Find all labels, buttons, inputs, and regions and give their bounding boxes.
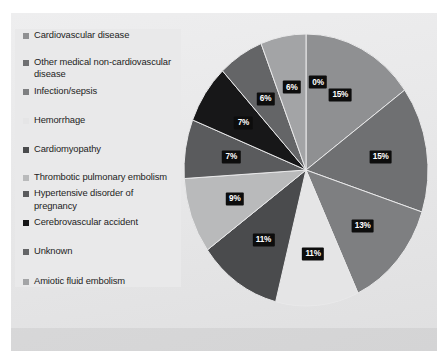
legend-swatch-icon bbox=[23, 279, 29, 285]
legend-swatch-icon bbox=[23, 249, 29, 255]
legend-item[interactable]: Cardiovascular disease bbox=[15, 29, 181, 41]
legend-item[interactable]: Cardiomyopathy bbox=[15, 143, 181, 155]
legend-item[interactable]: Other medical non-cardiovascular disease bbox=[15, 56, 181, 80]
chart-page: Cardiovascular diseaseOther medical non-… bbox=[0, 0, 447, 362]
legend-item-label: Hemorrhage bbox=[34, 114, 85, 126]
legend-item-label: Cardiovascular disease bbox=[34, 29, 129, 41]
legend-item-label: Other medical non-cardiovascular disease bbox=[34, 56, 176, 80]
legend-item-label: Infection/sepsis bbox=[34, 85, 97, 97]
pie-slice-label: 9% bbox=[226, 192, 244, 205]
pie-slice-label: 7% bbox=[234, 116, 252, 129]
legend-item[interactable]: Hypertensive disorder of pregnancy bbox=[15, 187, 181, 211]
legend-item[interactable]: Infection/sepsis bbox=[15, 85, 181, 97]
legend-item-label: Thrombotic pulmonary embolism bbox=[34, 171, 167, 183]
legend-item[interactable]: Thrombotic pulmonary embolism bbox=[15, 171, 181, 183]
pie-slice-label: 15% bbox=[329, 88, 352, 101]
legend-item[interactable]: Cerebrovascular accident bbox=[15, 216, 181, 228]
plot-panel: Cardiovascular diseaseOther medical non-… bbox=[11, 13, 437, 328]
pie-slice-label: 13% bbox=[351, 219, 374, 232]
legend-item[interactable]: Hemorrhage bbox=[15, 114, 181, 126]
pie-slice-label: 15% bbox=[369, 150, 392, 163]
legend-item-label: Cardiomyopathy bbox=[34, 143, 101, 155]
legend-swatch-icon bbox=[23, 118, 29, 124]
legend-swatch-icon bbox=[23, 89, 29, 95]
legend-swatch-icon bbox=[23, 147, 29, 153]
legend-swatch-icon bbox=[23, 220, 29, 226]
legend-item-label: Unknown bbox=[34, 245, 72, 257]
legend-swatch-icon bbox=[23, 60, 29, 66]
legend-item-label: Amiotic fluid embolism bbox=[34, 275, 125, 287]
legend-item-label: Cerebrovascular accident bbox=[34, 216, 138, 228]
pie-slice-label: 11% bbox=[302, 247, 324, 260]
legend-swatch-icon bbox=[23, 191, 29, 197]
legend-swatch-icon bbox=[23, 175, 29, 181]
legend-swatch-icon bbox=[23, 33, 29, 39]
pie-slice-label: 6% bbox=[283, 81, 301, 94]
pie-slice-label-zero: 0% bbox=[309, 76, 327, 89]
pie-chart: 15%15%13%11%11%9%7%7%6%6%0% bbox=[184, 34, 428, 306]
pie-slice-label: 11% bbox=[252, 233, 274, 246]
pie-slice-label: 7% bbox=[222, 150, 240, 163]
pie-svg bbox=[184, 34, 428, 306]
pie-slice-label: 6% bbox=[256, 92, 274, 105]
legend-item[interactable]: Amiotic fluid embolism bbox=[15, 275, 181, 287]
chart-legend: Cardiovascular diseaseOther medical non-… bbox=[15, 29, 181, 287]
chart-frame: Cardiovascular diseaseOther medical non-… bbox=[11, 13, 437, 351]
legend-item-label: Hypertensive disorder of pregnancy bbox=[34, 187, 176, 211]
legend-item[interactable]: Unknown bbox=[15, 245, 181, 257]
